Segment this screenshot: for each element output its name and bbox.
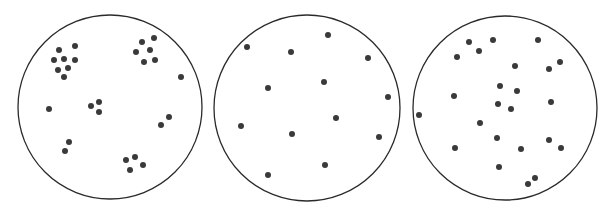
- dot: [512, 63, 518, 69]
- dot: [72, 57, 78, 63]
- dot: [476, 48, 482, 54]
- dot: [514, 88, 520, 94]
- dot: [62, 148, 68, 154]
- panel-random-distribution: [413, 16, 597, 200]
- dot: [333, 115, 339, 121]
- dot: [132, 154, 138, 160]
- dot: [61, 74, 67, 80]
- dot: [123, 157, 129, 163]
- dot: [322, 162, 328, 168]
- dot: [325, 32, 331, 38]
- dot: [133, 49, 139, 55]
- dot: [127, 167, 133, 173]
- dot: [451, 93, 457, 99]
- dot: [158, 122, 164, 128]
- dot: [365, 55, 371, 61]
- dot: [141, 59, 147, 65]
- dot: [289, 131, 295, 137]
- dot: [66, 139, 72, 145]
- panel-clumped-distribution: [18, 15, 202, 199]
- dot: [72, 43, 78, 49]
- dot: [55, 67, 61, 73]
- dot: [548, 99, 554, 105]
- dot: [265, 172, 271, 178]
- dot: [139, 39, 145, 45]
- dot: [546, 66, 552, 72]
- dot: [532, 175, 538, 181]
- clumped-boundary-circle: [18, 15, 202, 199]
- dot: [546, 137, 552, 143]
- dot: [96, 99, 102, 105]
- diagram-canvas: [0, 0, 611, 222]
- dot: [497, 83, 503, 89]
- dot: [46, 106, 52, 112]
- dot: [376, 134, 382, 140]
- dot: [490, 37, 496, 43]
- dot: [151, 35, 157, 41]
- panel-uniform-distribution: [214, 15, 400, 201]
- dot: [416, 112, 422, 118]
- dot: [65, 65, 71, 71]
- dot: [88, 103, 94, 109]
- dot: [495, 101, 501, 107]
- random-boundary-circle: [413, 16, 597, 200]
- dot: [166, 114, 172, 120]
- dot: [238, 123, 244, 129]
- uniform-boundary-circle: [214, 15, 400, 201]
- dot: [152, 57, 158, 63]
- dot: [178, 74, 184, 80]
- dot: [525, 181, 531, 187]
- dot: [56, 47, 62, 53]
- dispersion-diagram: [0, 0, 611, 222]
- dot: [140, 162, 146, 168]
- dot: [557, 59, 563, 65]
- dot: [265, 85, 271, 91]
- dot: [496, 164, 502, 170]
- dot: [51, 57, 57, 63]
- dot: [244, 44, 250, 50]
- dot: [518, 146, 524, 152]
- dot: [508, 106, 514, 112]
- dot: [477, 120, 483, 126]
- dot: [558, 145, 564, 151]
- dot: [96, 109, 102, 115]
- dot: [452, 145, 458, 151]
- dot: [385, 94, 391, 100]
- dot: [466, 39, 472, 45]
- dot: [454, 54, 460, 60]
- dot: [321, 79, 327, 85]
- dot: [288, 49, 294, 55]
- dot: [61, 56, 67, 62]
- dot: [147, 47, 153, 53]
- dot: [494, 135, 500, 141]
- dot: [535, 37, 541, 43]
